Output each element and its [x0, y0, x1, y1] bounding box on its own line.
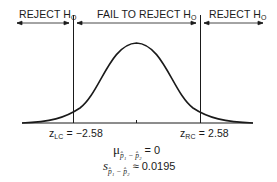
- mean-value: = 0: [145, 144, 161, 156]
- right-region-arrow: [204, 21, 263, 25]
- std-error-subscript: p̂₁ − p̂₂: [108, 167, 130, 176]
- left-reject-text: REJECT H: [19, 8, 71, 20]
- center-region-arrow: [77, 21, 196, 25]
- left-critical-value: = −2.58: [67, 127, 103, 139]
- left-reject-label: REJECT HO: [19, 8, 77, 21]
- right-critical-value: = 2.58: [199, 127, 229, 139]
- right-reject-subscript: O: [261, 14, 267, 21]
- left-reject-subscript: O: [71, 14, 77, 21]
- right-critical-subscript: RC: [185, 133, 195, 140]
- fail-to-reject-label: FAIL TO REJECT HO: [97, 8, 197, 21]
- fail-to-reject-subscript: O: [191, 14, 197, 21]
- left-critical-value-label: zLC = −2.58: [49, 127, 103, 140]
- left-critical-subscript: LC: [54, 133, 63, 140]
- right-reject-label: REJECT HO: [209, 8, 267, 21]
- left-region-arrow: [17, 21, 69, 25]
- fail-to-reject-text: FAIL TO REJECT H: [97, 8, 191, 20]
- right-critical-value-label: zRC = 2.58: [180, 127, 229, 140]
- std-error-value: ≈ 0.0195: [133, 160, 176, 172]
- std-error-formula: sp̂₁ − p̂₂ ≈ 0.0195: [103, 158, 175, 176]
- mu-symbol: μ: [113, 142, 120, 157]
- normal-curve: [22, 43, 253, 123]
- right-reject-text: REJECT H: [209, 8, 261, 20]
